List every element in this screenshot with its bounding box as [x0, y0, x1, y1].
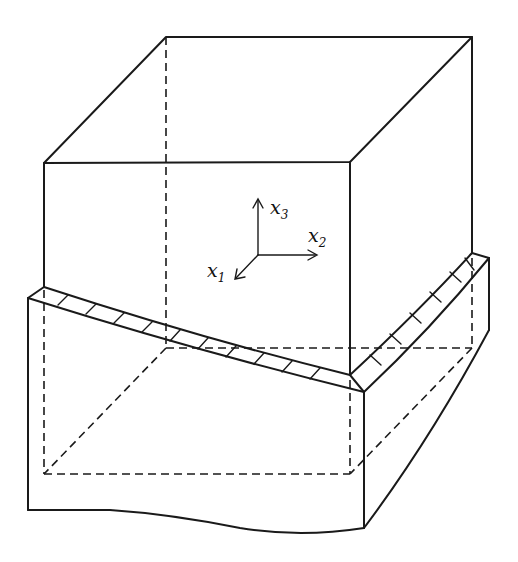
cube-top-face [44, 37, 472, 163]
layer-hatching-right [370, 258, 474, 365]
x1-label: x1 [207, 259, 225, 285]
hidden-edges [44, 258, 472, 474]
layer-back-corner [472, 253, 489, 258]
x2-label: x2 [308, 224, 326, 250]
shear-layer [28, 253, 489, 392]
base-bottom-front-curve [28, 510, 364, 533]
x1-axis-line [236, 255, 258, 278]
hidden-bottom-right-diag [350, 348, 472, 474]
x3-label: x3 [270, 196, 289, 222]
layer-right-lower [364, 258, 489, 392]
layer-left-corner [28, 287, 44, 298]
base-bottom-right-curve [364, 330, 489, 528]
block-on-base-diagram: x3 x2 x1 [0, 0, 518, 562]
coordinate-axes: x3 x2 x1 [207, 196, 326, 285]
layer-front-lower [28, 298, 364, 392]
base-block [28, 258, 489, 533]
layer-hatching-front [58, 295, 320, 379]
layer-front-upper [44, 287, 350, 375]
hidden-bottom-left-diag [44, 348, 166, 474]
